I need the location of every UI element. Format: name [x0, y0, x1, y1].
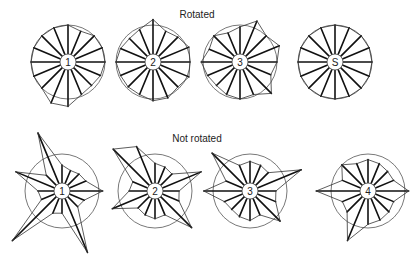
star-figure-rotated-2: 2 [116, 19, 190, 100]
figure-label: 2 [152, 186, 158, 197]
spoke [162, 172, 201, 188]
spoke [160, 47, 189, 59]
spoke [38, 133, 59, 184]
spoke [69, 194, 84, 200]
spoke [46, 175, 56, 185]
spoke [212, 153, 244, 185]
spoke [68, 197, 78, 207]
spoke [65, 170, 70, 183]
spoke [65, 198, 87, 252]
spoke [161, 197, 192, 228]
star-figure-rotated-S: S [298, 25, 372, 99]
star-figure-rotated-3: 3 [201, 21, 279, 99]
not-rotated-section-title: Not rotated [172, 133, 221, 144]
star-figure-not-rotated-4: 4 [316, 154, 409, 241]
star-diagram-figure: Rotated Not rotated 123S1234 [0, 0, 419, 261]
figure-label: 3 [237, 57, 243, 68]
spoke [137, 147, 152, 184]
spoke [160, 65, 189, 77]
spoke [53, 198, 59, 213]
star-figure-not-rotated-1: 1 [12, 133, 102, 253]
spoke [246, 68, 272, 94]
spoke [156, 69, 168, 98]
star-figure-not-rotated-3: 3 [204, 153, 302, 228]
figure-label: 1 [65, 57, 71, 68]
figure-label: 4 [365, 186, 371, 197]
spoke [347, 198, 364, 240]
spoke [161, 174, 172, 185]
spoke [12, 197, 56, 241]
spoke [133, 182, 148, 188]
star-figure-not-rotated-2: 2 [112, 147, 201, 228]
spoke [257, 170, 301, 188]
figure-label: S [332, 57, 339, 68]
spoke-tip-outline [316, 160, 409, 241]
spoke [41, 194, 54, 199]
spoke [68, 174, 79, 185]
figure-label: 2 [150, 57, 156, 68]
figure-label: 3 [247, 186, 253, 197]
spoke [247, 46, 279, 59]
spoke [138, 197, 149, 208]
figure-label: 1 [59, 186, 65, 197]
star-figure-rotated-1: 1 [31, 25, 105, 106]
rotated-section-title: Rotated [179, 9, 214, 20]
spoke [112, 194, 147, 209]
